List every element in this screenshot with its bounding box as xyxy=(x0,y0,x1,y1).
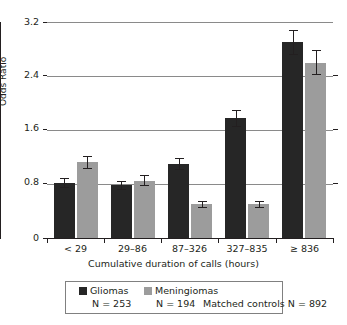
bar-gliomas-0 xyxy=(54,183,75,238)
bar-meningiomas-3 xyxy=(248,204,269,238)
legend-count-gliomas: N = 253 xyxy=(92,298,131,310)
legend-swatch-meningiomas-icon xyxy=(144,287,152,295)
error-cap-upper-gliomas-1 xyxy=(117,181,126,182)
x-axis-title: Cumulative duration of calls (hours) xyxy=(0,258,347,269)
error-cap-lower-meningiomas-3 xyxy=(255,207,264,208)
y-axis-title: Odds Ratio xyxy=(0,57,8,106)
legend-row-counts: N = 253 N = 194 Matched controls N = 892 xyxy=(66,298,282,312)
error-bar-meningiomas-4 xyxy=(316,50,317,74)
error-bar-meningiomas-0 xyxy=(87,156,88,168)
x-tick-label-2: 87–326 xyxy=(161,243,218,254)
legend-label-meningiomas: Meningiomas xyxy=(155,285,218,297)
legend-row-series: Gliomas Meningiomas xyxy=(66,284,282,298)
error-bar-gliomas-1 xyxy=(121,181,122,190)
error-cap-upper-meningiomas-3 xyxy=(255,201,264,202)
error-cap-lower-meningiomas-4 xyxy=(312,74,321,75)
error-bar-gliomas-0 xyxy=(64,178,65,187)
y-tick-mark-right-2-4 xyxy=(333,75,338,76)
error-cap-upper-gliomas-4 xyxy=(289,30,298,31)
error-cap-upper-meningiomas-4 xyxy=(312,50,321,51)
x-tick-label-0: < 29 xyxy=(47,243,104,254)
legend-label-gliomas: Gliomas xyxy=(90,285,128,297)
y-tick-label-0: 0 xyxy=(33,233,39,243)
x-tick-label-1: 29–86 xyxy=(104,243,161,254)
error-cap-lower-gliomas-0 xyxy=(60,187,69,188)
bar-gliomas-1 xyxy=(111,185,132,238)
error-bar-gliomas-4 xyxy=(293,30,294,54)
bar-gliomas-3 xyxy=(225,118,246,238)
x-tick-label-3: 327–835 xyxy=(218,243,276,254)
error-cap-upper-gliomas-2 xyxy=(175,158,184,159)
grid-line-3-2 xyxy=(47,22,333,23)
error-cap-lower-meningiomas-2 xyxy=(198,207,207,208)
legend-count-meningiomas: N = 194 xyxy=(156,298,195,310)
x-tick-label-4: ≥ 836 xyxy=(276,243,333,254)
error-bar-meningiomas-1 xyxy=(144,175,145,185)
error-cap-lower-gliomas-4 xyxy=(289,54,298,55)
bar-gliomas-2 xyxy=(168,164,189,238)
x-axis-line xyxy=(47,238,334,239)
bar-meningiomas-2 xyxy=(191,204,212,238)
y-tick-label-0-8: 0.8 xyxy=(24,177,39,187)
plot-area xyxy=(47,22,333,238)
error-cap-lower-gliomas-3 xyxy=(232,126,241,127)
odds-ratio-bar-chart: Odds Ratio 3.2 2.4 1.6 0.8 0 < 29 29–86 … xyxy=(0,0,347,325)
error-bar-gliomas-3 xyxy=(236,110,237,126)
y-axis-line xyxy=(0,22,1,239)
bar-meningiomas-1 xyxy=(134,181,155,238)
error-cap-upper-meningiomas-2 xyxy=(198,201,207,202)
error-cap-lower-meningiomas-1 xyxy=(140,185,149,186)
y-tick-label-2-4: 2.4 xyxy=(24,70,39,80)
error-cap-lower-gliomas-2 xyxy=(175,169,184,170)
error-cap-upper-gliomas-3 xyxy=(232,110,241,111)
x-tick-mark-end xyxy=(333,239,334,243)
error-cap-upper-gliomas-0 xyxy=(60,178,69,179)
y-tick-mark-right-0-8 xyxy=(333,183,338,184)
legend-count-matched-controls: Matched controls N = 892 xyxy=(203,298,327,310)
y-tick-label-3-2: 3.2 xyxy=(24,17,39,27)
y-tick-mark-right-1-6 xyxy=(333,129,338,130)
error-bar-gliomas-2 xyxy=(179,158,180,169)
bar-meningiomas-4 xyxy=(305,63,326,239)
error-cap-upper-meningiomas-1 xyxy=(140,175,149,176)
error-cap-upper-meningiomas-0 xyxy=(83,156,92,157)
error-cap-lower-gliomas-1 xyxy=(117,189,126,190)
y-tick-label-1-6: 1.6 xyxy=(24,123,39,133)
legend: Gliomas Meningiomas N = 253 N = 194 Matc… xyxy=(65,281,283,314)
error-cap-lower-meningiomas-0 xyxy=(83,168,92,169)
bar-meningiomas-0 xyxy=(77,162,98,238)
legend-swatch-gliomas-icon xyxy=(79,287,87,295)
bar-gliomas-4 xyxy=(282,42,303,238)
